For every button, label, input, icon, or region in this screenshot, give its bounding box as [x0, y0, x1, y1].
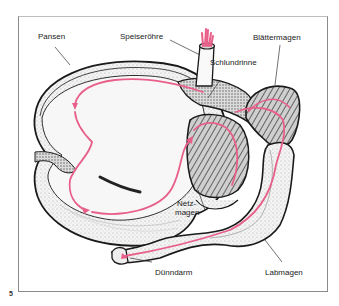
label-labmagen: Labmagen — [265, 268, 303, 277]
label-duenndarm: Dünndarm — [155, 268, 192, 277]
label-speiseroehre: Speiseröhre — [120, 32, 163, 41]
blaettermagen-organ — [246, 86, 300, 147]
label-schlundrinne: Schlundrinne — [210, 58, 257, 67]
label-netzmagen-line1: Netz- — [177, 199, 196, 208]
label-netzmagen-line2: magen — [175, 208, 199, 217]
ruminant-stomach-illustration — [0, 0, 339, 306]
label-blaettermagen: Blättermagen — [253, 33, 301, 42]
label-pansen: Pansen — [38, 32, 65, 41]
figure-number: 5 — [9, 290, 13, 297]
